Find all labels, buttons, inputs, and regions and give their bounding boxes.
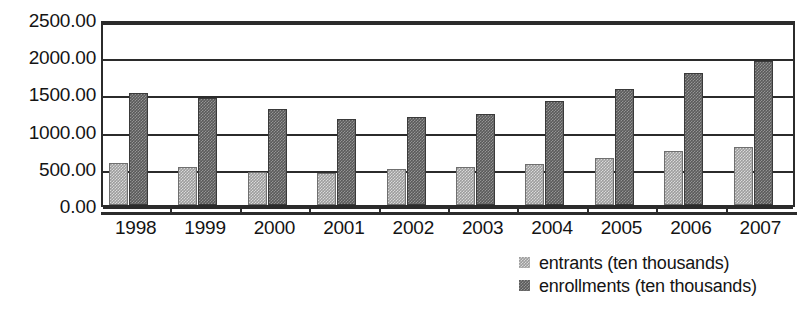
- legend-item-entrants: entrants (ten thousands): [519, 251, 809, 274]
- bar-entrants-2003: [456, 167, 475, 205]
- y-axis-tick-label: 1000.00: [0, 123, 96, 142]
- bar-entrants-2006: [664, 151, 683, 205]
- legend-item-enrollments: enrollments (ten thousands): [519, 274, 809, 297]
- bar-group-2005: [589, 23, 658, 205]
- bar-entrants-2005: [595, 158, 614, 205]
- bar-entrants-2000: [248, 172, 267, 205]
- chart-legend: entrants (ten thousands)enrollments (ten…: [519, 251, 809, 297]
- bar-entrants-2004: [525, 164, 544, 205]
- legend-item-label: entrants (ten thousands): [539, 253, 729, 273]
- y-axis-tick-label: 500.00: [0, 160, 96, 179]
- legend-item-label: enrollments (ten thousands): [539, 276, 757, 296]
- x-axis-tick-label: 2000: [240, 216, 309, 240]
- bar-group-1998: [103, 23, 172, 205]
- bar-entrants-2002: [387, 169, 406, 205]
- y-axis: 0.00500.001000.001500.002000.002500.00: [0, 0, 96, 220]
- bar-group-2006: [658, 23, 727, 205]
- x-axis-tick-label: 2002: [379, 216, 448, 240]
- bar-entrants-2001: [317, 173, 336, 205]
- bar-enrollments-2004: [545, 101, 564, 205]
- y-axis-tick-label: 0.00: [0, 197, 96, 216]
- bar-enrollments-2001: [337, 119, 356, 205]
- x-axis: 1998199920002001200220032004200520062007: [101, 216, 795, 244]
- x-axis-tick-label: 1998: [101, 216, 170, 240]
- bar-enrollments-2000: [268, 109, 287, 205]
- x-axis-tick-label: 2005: [587, 216, 656, 240]
- y-axis-tick-label: 1500.00: [0, 85, 96, 104]
- x-axis-tick-label: 2001: [309, 216, 378, 240]
- x-axis-tick-label: 2004: [517, 216, 586, 240]
- plot-area: [101, 21, 795, 207]
- bar-group-1999: [172, 23, 241, 205]
- bar-enrollments-2002: [407, 117, 426, 205]
- x-axis-tick-label: 2007: [726, 216, 795, 240]
- bar-group-2003: [450, 23, 519, 205]
- bar-entrants-1999: [178, 167, 197, 205]
- x-axis-tick-label: 2003: [448, 216, 517, 240]
- bar-group-2001: [311, 23, 380, 205]
- legend-swatch-icon: [519, 257, 530, 268]
- bar-group-2007: [728, 23, 797, 205]
- y-axis-tick-label: 2500.00: [0, 11, 96, 30]
- x-axis-tick-label: 2006: [656, 216, 725, 240]
- bar-group-2000: [242, 23, 311, 205]
- bar-enrollments-2003: [476, 114, 495, 206]
- bar-chart-figure: 0.00500.001000.001500.002000.002500.00 1…: [0, 0, 810, 318]
- legend-swatch-icon: [519, 280, 530, 291]
- bar-enrollments-2007: [754, 61, 773, 205]
- bar-enrollments-2006: [684, 73, 703, 205]
- bar-entrants-2007: [734, 147, 753, 205]
- bar-group-2002: [381, 23, 450, 205]
- x-axis-line: [101, 212, 797, 215]
- bar-enrollments-1999: [198, 98, 217, 205]
- x-axis-tick-label: 1999: [170, 216, 239, 240]
- bar-enrollments-1998: [129, 93, 148, 205]
- bar-group-2004: [519, 23, 588, 205]
- bar-enrollments-2005: [615, 89, 634, 205]
- bar-entrants-1998: [109, 163, 128, 205]
- y-axis-tick-label: 2000.00: [0, 48, 96, 67]
- bars-layer: [103, 23, 793, 205]
